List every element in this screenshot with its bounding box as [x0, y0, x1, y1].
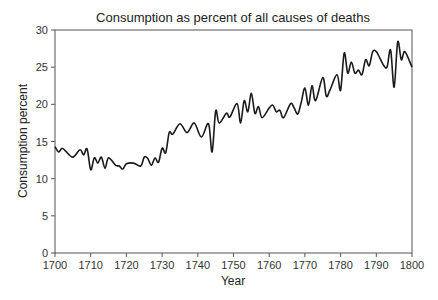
x-tick-label: 1780	[328, 259, 352, 271]
y-tick-label: 0	[42, 247, 48, 259]
y-tick-label: 30	[36, 24, 48, 36]
x-axis: 1700171017201730174017501760177017801790…	[43, 253, 424, 271]
x-tick-label: 1730	[150, 259, 174, 271]
x-tick-label: 1800	[400, 259, 424, 271]
x-tick-label: 1710	[78, 259, 102, 271]
x-tick-label: 1760	[257, 259, 281, 271]
x-tick-label: 1790	[364, 259, 388, 271]
x-tick-label: 1740	[186, 259, 210, 271]
line-chart: Consumption as percent of all causes of …	[0, 0, 438, 300]
y-tick-label: 5	[42, 210, 48, 222]
y-tick-label: 20	[36, 98, 48, 110]
x-tick-label: 1770	[293, 259, 317, 271]
y-tick-label: 10	[36, 173, 48, 185]
y-axis-label: Consumption percent	[16, 83, 30, 198]
x-tick-label: 1700	[43, 259, 67, 271]
y-tick-label: 15	[36, 136, 48, 148]
x-tick-label: 1720	[114, 259, 138, 271]
chart-title: Consumption as percent of all causes of …	[96, 10, 370, 25]
x-tick-label: 1750	[221, 259, 245, 271]
data-line	[55, 41, 412, 170]
plot-area	[55, 30, 412, 253]
y-tick-label: 25	[36, 61, 48, 73]
x-axis-label: Year	[221, 274, 245, 288]
y-axis: 051015202530	[36, 24, 55, 259]
